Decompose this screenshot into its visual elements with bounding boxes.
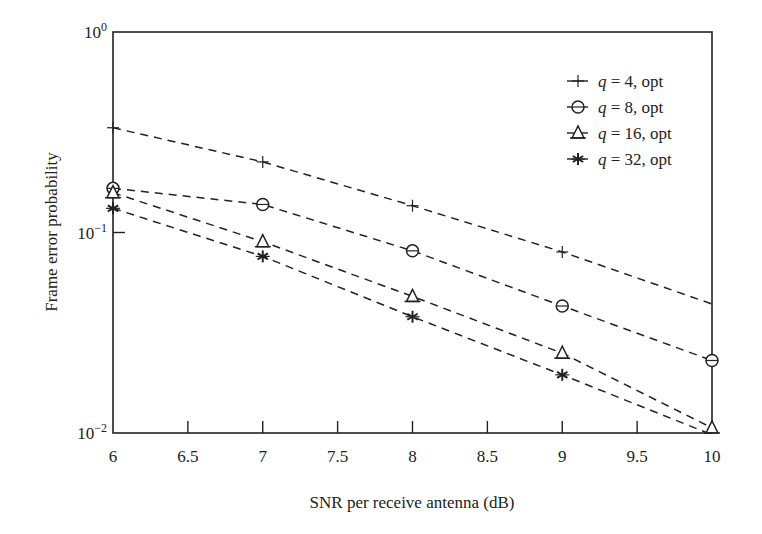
series-line [113,193,712,428]
x-tick-label: 8 [408,447,417,466]
plot-frame [113,32,712,433]
triangle-marker-icon [572,126,584,138]
x-tick-label: 6.5 [177,447,198,466]
legend-label: q = 16, opt [598,124,672,143]
legend: q = 4, optq = 8, optq = 16, optq = 32, o… [567,72,672,169]
series-line [113,188,712,360]
legend-item: q = 8, opt [567,98,664,117]
y-axis-title: Frame error probability [42,152,61,312]
triangle-marker-icon [257,235,269,247]
legend-item: q = 16, opt [567,124,672,143]
series-triangle [105,186,720,433]
asterisk-marker-icon [256,250,270,262]
x-tick-label: 6 [109,447,118,466]
series-asterisk [106,202,712,434]
x-axis: 66.577.588.599.510 [109,421,721,466]
legend-item: q = 4, opt [567,72,664,91]
asterisk-marker-icon [406,311,420,323]
x-tick-label: 9.5 [627,447,648,466]
legend-label: q = 4, opt [598,72,664,91]
y-tick-label: 10−1 [77,221,107,243]
y-tick-label: 100 [84,20,107,42]
triangle-marker-icon [556,346,568,358]
x-tick-label: 7.5 [327,447,348,466]
y-tick-label: 10−2 [77,421,107,443]
x-tick-label: 7 [259,447,268,466]
y-axis: 10010−110−2 [77,20,125,443]
plot-border [113,32,712,433]
legend-label: q = 32, opt [598,150,672,169]
legend-item: q = 32, opt [567,150,672,169]
frame-error-chart: 66.577.588.599.510 10010−110−2 SNR per r… [0,0,762,534]
x-tick-label: 8.5 [477,447,498,466]
x-tick-label: 9 [558,447,567,466]
x-axis-title: SNR per receive antenna (dB) [310,493,515,512]
asterisk-marker-icon [106,202,120,214]
asterisk-marker-icon [555,369,569,381]
triangle-marker-icon [706,421,718,433]
x-tick-label: 10 [704,447,721,466]
asterisk-marker-icon [571,153,585,165]
legend-label: q = 8, opt [598,98,664,117]
